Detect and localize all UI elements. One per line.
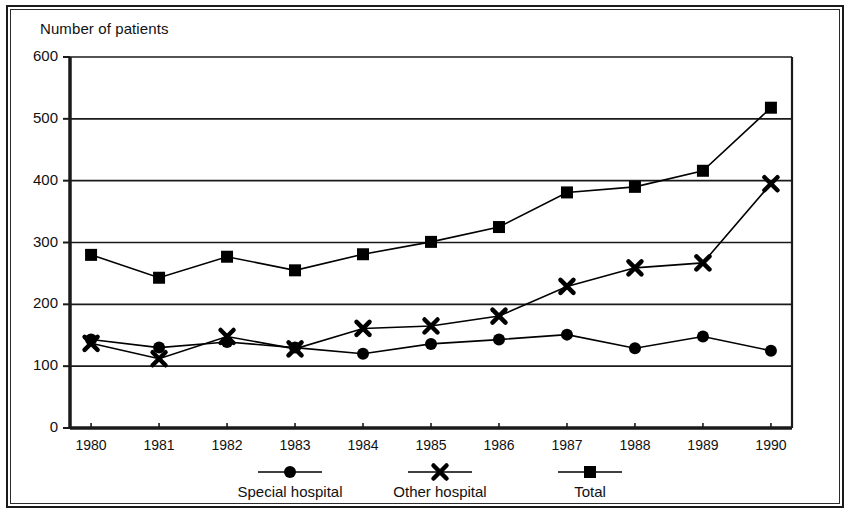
data-point-square-1989	[697, 165, 709, 177]
x-tick-label-1981: 1981	[133, 437, 185, 453]
data-point-square-1986	[493, 221, 505, 233]
data-point-square-1981	[153, 272, 165, 284]
y-tick-label-300: 300	[12, 233, 58, 250]
series-special-hospital	[85, 329, 777, 360]
data-point-square-1990	[765, 102, 777, 114]
data-point-square-1985	[425, 236, 437, 248]
y-tick-label-400: 400	[12, 171, 58, 188]
y-tick-label-100: 100	[12, 356, 58, 373]
data-point-square-1980	[85, 249, 97, 261]
data-point-circle-1990	[765, 345, 777, 357]
x-tick-label-1985: 1985	[405, 437, 457, 453]
data-point-circle-1986	[493, 334, 505, 346]
legend-label-0: Special hospital	[210, 483, 370, 500]
data-point-square-1984	[357, 248, 369, 260]
y-tick-label-600: 600	[12, 47, 58, 64]
x-tick-label-1984: 1984	[337, 437, 389, 453]
data-point-circle-1987	[561, 329, 573, 341]
y-axis-title: Number of patients	[40, 20, 169, 37]
y-tick-label-200: 200	[12, 294, 58, 311]
x-tick-label-1983: 1983	[269, 437, 321, 453]
data-point-circle-1984	[357, 348, 369, 360]
x-tick-label-1989: 1989	[677, 437, 729, 453]
y-tick-label-500: 500	[12, 109, 58, 126]
series-total	[85, 102, 777, 284]
data-point-circle-1988	[629, 342, 641, 354]
series-line-2	[91, 108, 771, 278]
legend-marker-x-marker	[408, 466, 472, 479]
data-point-square-1988	[629, 181, 641, 193]
data-point-square-1987	[561, 186, 573, 198]
series-line-1	[91, 184, 771, 359]
legend-symbol-circle	[284, 466, 296, 478]
x-tick-label-1980: 1980	[65, 437, 117, 453]
legend-label-1: Other hospital	[360, 483, 520, 500]
data-point-square-1982	[221, 251, 233, 263]
x-tick-label-1988: 1988	[609, 437, 661, 453]
data-point-circle-1985	[425, 338, 437, 350]
data-point-circle-1989	[697, 330, 709, 342]
x-tick-label-1986: 1986	[473, 437, 525, 453]
legend-marker-circle-marker	[258, 466, 322, 478]
x-tick-label-1990: 1990	[745, 437, 797, 453]
data-point-square-1983	[289, 264, 301, 276]
legend-label-2: Total	[510, 483, 670, 500]
y-tick-label-0: 0	[12, 418, 58, 435]
legend-symbol-square	[584, 466, 596, 478]
x-tick-label-1987: 1987	[541, 437, 593, 453]
line-chart: Number of patients 0100200300400500600 1…	[0, 0, 854, 520]
legend-marker-square-marker	[558, 466, 622, 478]
series-other-hospital	[85, 177, 778, 365]
x-tick-label-1982: 1982	[201, 437, 253, 453]
